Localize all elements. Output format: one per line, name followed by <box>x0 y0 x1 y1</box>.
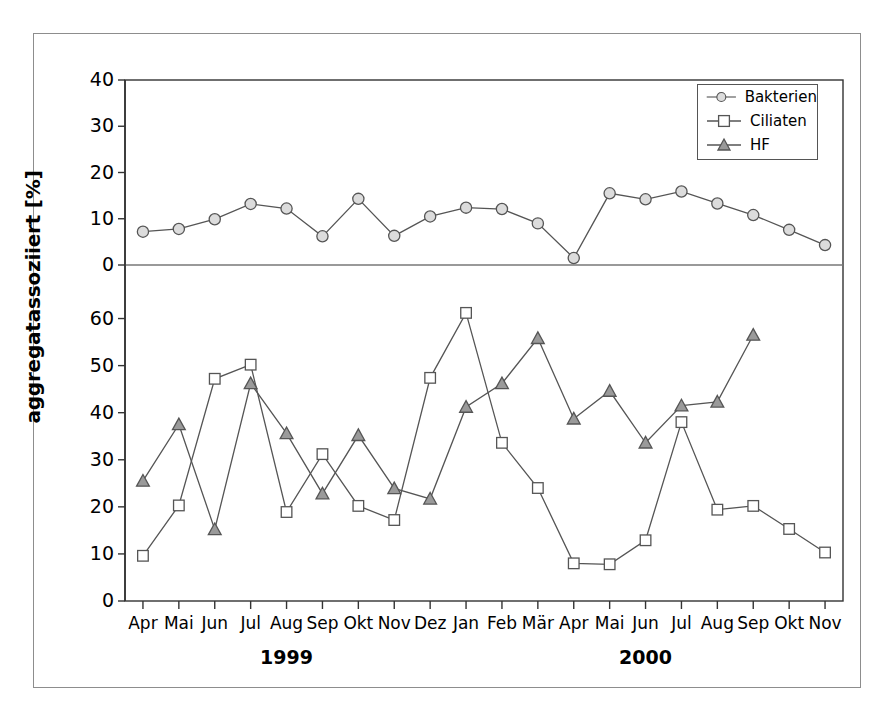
y-tick-label: 40 <box>68 401 114 423</box>
y-tick-label: 20 <box>68 495 114 517</box>
x-tick-label: Nov <box>802 613 848 633</box>
y-tick-label: 0 <box>68 253 114 275</box>
data-point-square <box>281 507 292 518</box>
y-tick-label: 0 <box>68 589 114 611</box>
data-point-circle <box>748 209 759 220</box>
series-bakterien <box>137 186 830 264</box>
series-line-hf <box>143 335 753 529</box>
legend-square-icon <box>705 112 743 130</box>
y-tick-label: 60 <box>68 307 114 329</box>
data-point-triangle <box>531 332 544 344</box>
data-point-square <box>461 308 472 319</box>
data-point-triangle <box>208 523 221 535</box>
y-tick-label: 10 <box>68 207 114 229</box>
data-point-circle <box>819 240 830 251</box>
data-point-triangle <box>424 492 437 504</box>
data-point-square <box>676 417 687 428</box>
legend-circle-icon <box>705 88 738 106</box>
data-point-triangle <box>388 482 401 494</box>
data-point-circle <box>532 218 543 229</box>
data-point-circle <box>137 226 148 237</box>
y-tick-label: 30 <box>68 114 114 136</box>
data-point-circle <box>353 193 364 204</box>
data-point-square <box>533 483 544 494</box>
data-point-circle <box>317 231 328 242</box>
year-group-label: 2000 <box>586 646 706 668</box>
data-point-square <box>138 551 149 562</box>
data-point-circle <box>676 186 687 197</box>
y-tick-label: 30 <box>68 448 114 470</box>
legend-item-ciliaten: Ciliaten <box>698 109 817 133</box>
data-point-square <box>604 559 615 570</box>
data-point-circle <box>209 214 220 225</box>
data-point-square <box>712 504 723 515</box>
data-point-triangle <box>137 475 150 487</box>
data-point-triangle <box>460 401 473 413</box>
data-point-circle <box>425 211 436 222</box>
data-point-square <box>568 558 579 569</box>
series-ciliaten <box>138 308 831 570</box>
year-group-label: 1999 <box>227 646 347 668</box>
data-point-square <box>317 449 328 460</box>
data-point-circle <box>712 198 723 209</box>
figure-container: aggregatassoziiert [%] 01020304001020304… <box>0 0 895 721</box>
y-tick-label: 50 <box>68 354 114 376</box>
data-point-triangle <box>747 329 760 341</box>
data-point-circle <box>173 223 184 234</box>
data-point-triangle <box>567 412 580 424</box>
data-point-triangle <box>711 395 724 407</box>
data-point-square <box>425 373 436 384</box>
data-point-circle <box>496 203 507 214</box>
data-point-square <box>209 373 220 384</box>
legend-item-hf: HF <box>698 133 817 157</box>
data-point-square <box>245 359 256 370</box>
series-hf <box>137 329 760 535</box>
data-point-circle <box>389 230 400 241</box>
legend-label-ciliaten: Ciliaten <box>750 112 807 130</box>
data-point-square <box>820 547 831 558</box>
data-point-triangle <box>352 429 365 441</box>
data-point-triangle <box>172 418 185 430</box>
data-point-triangle <box>316 487 329 499</box>
data-point-square <box>389 515 400 526</box>
data-point-circle <box>568 252 579 263</box>
legend-triangle-icon <box>705 136 743 154</box>
data-point-circle <box>245 198 256 209</box>
data-point-circle <box>640 194 651 205</box>
data-point-square <box>640 535 651 546</box>
y-tick-label: 20 <box>68 161 114 183</box>
legend-label-hf: HF <box>750 136 770 154</box>
data-point-triangle <box>280 427 293 439</box>
y-tick-label: 10 <box>68 542 114 564</box>
data-point-square <box>497 438 508 449</box>
y-tick-label: 40 <box>68 68 114 90</box>
chart-legend: Bakterien Ciliaten HF <box>697 84 818 160</box>
data-point-circle <box>281 203 292 214</box>
legend-label-bakterien: Bakterien <box>745 88 817 106</box>
data-point-square <box>174 500 185 511</box>
data-point-circle <box>460 202 471 213</box>
data-point-circle <box>604 188 615 199</box>
legend-item-bakterien: Bakterien <box>698 85 817 109</box>
series-line-ciliaten <box>143 313 825 564</box>
data-point-square <box>748 501 759 512</box>
data-point-triangle <box>603 385 616 397</box>
data-point-square <box>784 524 795 535</box>
data-point-circle <box>784 224 795 235</box>
data-point-square <box>353 501 364 512</box>
